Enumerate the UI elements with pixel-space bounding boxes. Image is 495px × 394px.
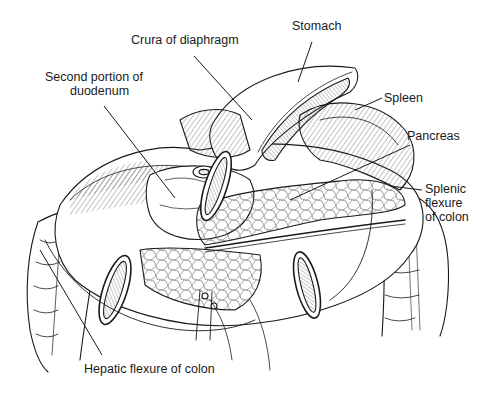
label-splenic-flexure-line1: Splenic [425,182,466,196]
label-splenic-flexure-line2: flexure [425,196,463,210]
label-crura-of-diaphragm: Crura of diaphragm [131,33,239,47]
label-splenic-flexure-line3: of colon [425,210,469,224]
crura-of-diaphragm [180,110,250,158]
label-spleen: Spleen [384,91,423,105]
label-second-portion-of-duodenum-line1: Second portion of [45,70,143,84]
label-pancreas: Pancreas [407,129,460,143]
label-stomach: Stomach [292,19,341,33]
label-second-portion-of-duodenum-line2: duodenum [70,84,129,98]
label-hepatic-flexure-of-colon: Hepatic flexure of colon [84,362,215,376]
anatomy-illustration [0,0,495,394]
